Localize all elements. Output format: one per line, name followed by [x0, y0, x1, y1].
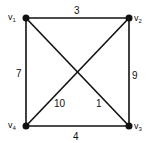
weight-label-v2-v3: 9	[132, 70, 138, 81]
vertex-label-v3: v3	[134, 121, 143, 132]
weight-label-v1-v2: 3	[74, 5, 80, 16]
vertex-v1	[23, 15, 30, 22]
vertex-v2	[126, 15, 133, 22]
weight-label-v4-v2: 10	[54, 98, 66, 109]
vertex-v3	[126, 123, 133, 130]
vertex-label-v4: v4	[8, 120, 17, 131]
weight-label-v4-v1: 7	[16, 68, 22, 79]
vertex-label-v2: v2	[134, 13, 143, 24]
vertex-v4	[23, 123, 30, 130]
weight-label-v1-v3: 1	[96, 98, 102, 109]
weight-label-v3-v4: 4	[73, 131, 79, 142]
weighted-graph: v1 v2 v3 v4 3 9 4 7 10 1	[0, 0, 155, 143]
vertex-label-v1: v1	[8, 12, 17, 23]
